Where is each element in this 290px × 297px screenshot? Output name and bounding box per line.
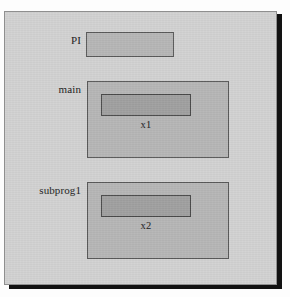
scanned-page-canvas: PI main x1 subprog1 x2: [0, 0, 290, 297]
variable-label-x1: x1: [101, 119, 191, 130]
scope-box-pi: [86, 32, 174, 57]
scope-label-subprog1: subprog1: [7, 184, 81, 196]
variable-box-x2: [101, 195, 191, 217]
scope-label-pi: PI: [25, 34, 81, 46]
variable-label-x2: x2: [101, 220, 191, 231]
scope-label-main: main: [15, 83, 81, 95]
scope-box-main: x1: [87, 81, 229, 158]
program-panel: PI main x1 subprog1 x2: [4, 11, 277, 285]
variable-box-x1: [101, 94, 191, 116]
scope-box-subprog1: x2: [87, 182, 229, 259]
